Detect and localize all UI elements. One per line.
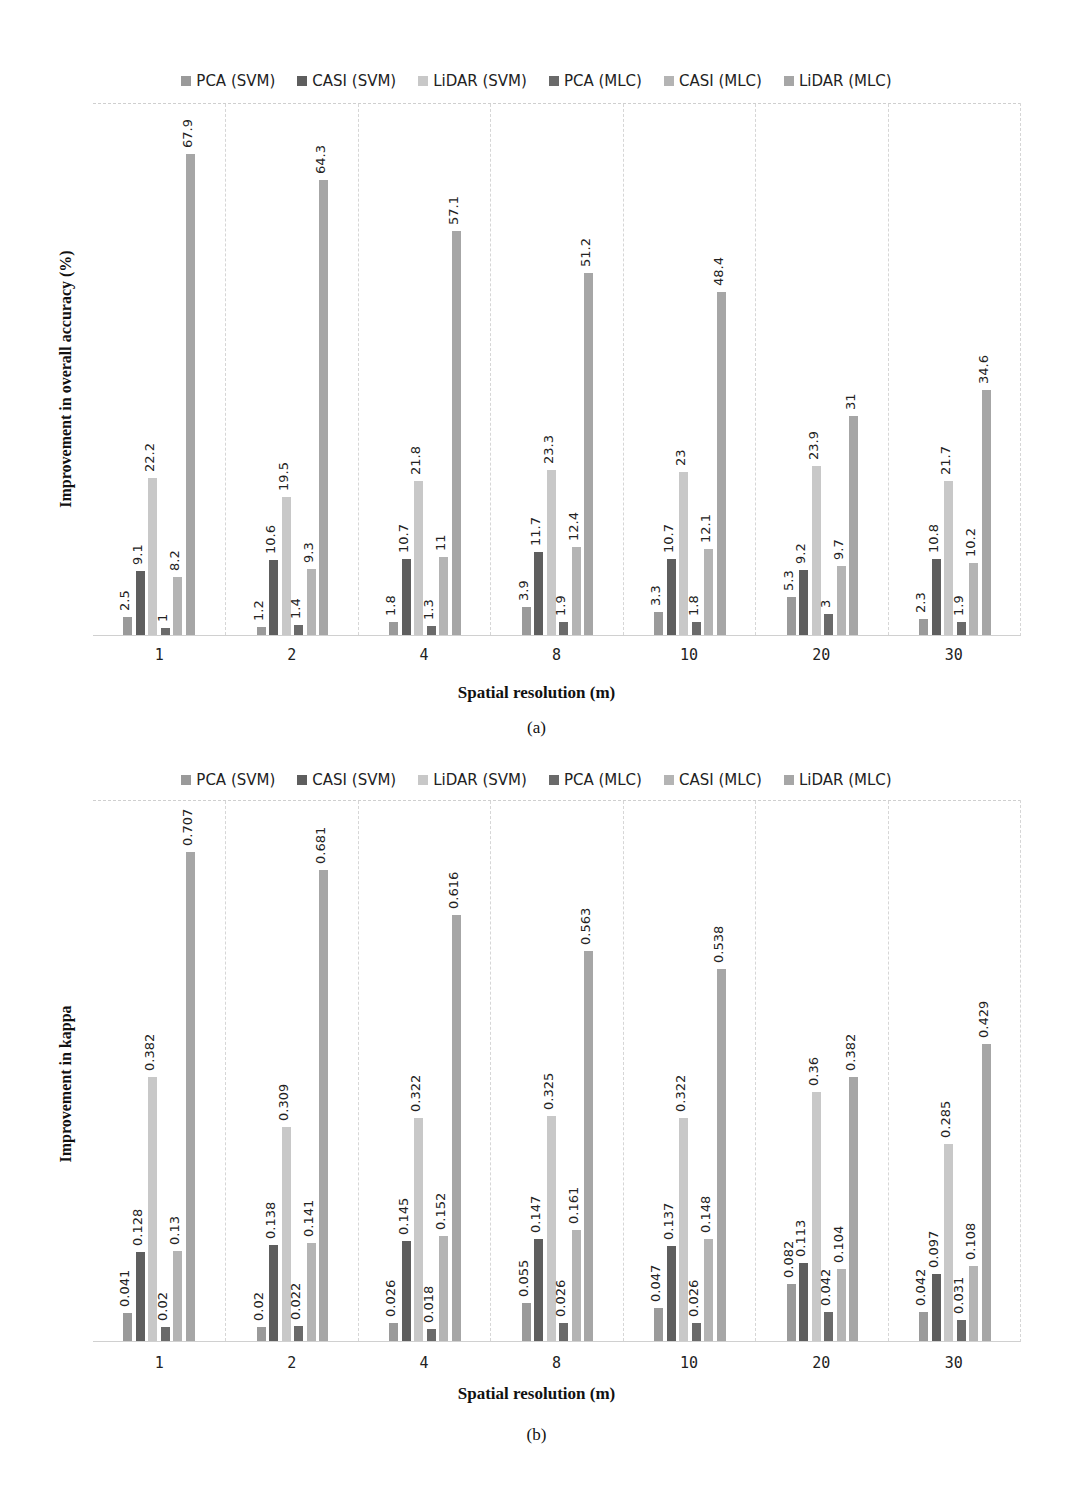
legend-item-pca-mlc: PCA (MLC) (549, 771, 642, 789)
bar-casi-mlc (837, 566, 846, 635)
data-label: 0.429 (977, 1001, 990, 1038)
bar-lidar-mlc (452, 915, 461, 1341)
bar-lidar-mlc (186, 154, 195, 635)
y-axis-label-a: Improvement in overall accuracy (%) (57, 209, 75, 549)
bar-casi-mlc (439, 557, 448, 635)
data-label: 5.3 (782, 571, 795, 592)
data-label: 0.36 (807, 1057, 820, 1086)
data-label: 0.538 (712, 925, 725, 962)
bar-casi-mlc (439, 1236, 448, 1341)
data-label: 0.031 (952, 1276, 965, 1313)
bar-pca-svm (257, 1327, 266, 1341)
bar-casi-mlc (704, 1239, 713, 1341)
data-label: 0.322 (409, 1075, 422, 1112)
data-label: 1 (156, 614, 169, 622)
x-tick-label: 8 (527, 1354, 587, 1372)
x-tick-label: 2 (262, 1354, 322, 1372)
category-group-2: 0.020.1380.3090.0220.1410.681 (225, 801, 357, 1341)
data-label: 0.041 (118, 1269, 131, 1306)
bar-lidar-mlc (849, 1077, 858, 1341)
legend-swatch-icon (664, 775, 674, 785)
data-label: 0.128 (131, 1209, 144, 1246)
legend-item-pca-svm: PCA (SVM) (181, 72, 275, 90)
legend-label: LiDAR (SVM) (433, 72, 527, 90)
data-label: 51.2 (579, 238, 592, 267)
bar-casi-mlc (704, 549, 713, 635)
bar-pca-svm (123, 1313, 132, 1341)
data-label: 3.3 (649, 585, 662, 606)
bar-lidar-mlc (982, 1044, 991, 1341)
category-group-20: 0.0820.1130.360.0420.1040.382 (755, 801, 887, 1341)
bar-pca-svm (919, 1312, 928, 1341)
data-label: 8.2 (168, 550, 181, 571)
data-label: 1.9 (952, 595, 965, 616)
category-group-8: 3.911.723.31.912.451.2 (490, 104, 622, 635)
legend-label: PCA (SVM) (196, 72, 275, 90)
bar-pca-mlc (692, 622, 701, 635)
category-group-8: 0.0550.1470.3250.0260.1610.563 (490, 801, 622, 1341)
bar-casi-mlc (837, 1269, 846, 1341)
legend-label: PCA (SVM) (196, 771, 275, 789)
bar-casi-svm (932, 1274, 941, 1341)
bar-pca-svm (787, 1284, 796, 1341)
data-label: 3 (819, 599, 832, 607)
bar-lidar-mlc (584, 951, 593, 1341)
data-label: 0.02 (156, 1292, 169, 1321)
data-label: 0.026 (384, 1280, 397, 1317)
data-label: 0.148 (699, 1195, 712, 1232)
legend-item-pca-svm: PCA (SVM) (181, 771, 275, 789)
legend-swatch-icon (181, 76, 191, 86)
data-label: 0.022 (289, 1283, 302, 1320)
bar-casi-mlc (572, 1230, 581, 1341)
legend-swatch-icon (664, 76, 674, 86)
category-group-10: 0.0470.1370.3220.0260.1480.538 (623, 801, 755, 1341)
data-label: 2.3 (914, 592, 927, 613)
bar-casi-mlc (969, 563, 978, 635)
bar-casi-svm (667, 559, 676, 635)
bar-pca-svm (389, 1323, 398, 1341)
legend-item-casi-svm: CASI (SVM) (297, 72, 396, 90)
data-label: 0.055 (517, 1260, 530, 1297)
data-label: 9.7 (832, 540, 845, 561)
data-label: 21.7 (939, 446, 952, 475)
bar-casi-svm (269, 1245, 278, 1341)
data-label: 3.9 (517, 581, 530, 602)
bar-lidar-mlc (319, 870, 328, 1341)
bar-lidar-mlc (452, 231, 461, 635)
data-label: 10.7 (397, 524, 410, 553)
data-label: 67.9 (181, 119, 194, 148)
y-axis-label-b: Improvement in kappa (57, 914, 75, 1254)
legend-label: CASI (MLC) (679, 72, 762, 90)
bar-casi-mlc (173, 577, 182, 635)
bar-pca-mlc (692, 1323, 701, 1341)
x-tick-label: 4 (394, 646, 454, 664)
bar-casi-mlc (572, 547, 581, 635)
data-label: 10.7 (662, 524, 675, 553)
legend-swatch-icon (784, 76, 794, 86)
category-group-1: 2.59.122.218.267.9 (93, 104, 225, 635)
legend-swatch-icon (784, 775, 794, 785)
bar-pca-mlc (957, 622, 966, 635)
data-label: 0.13 (168, 1216, 181, 1245)
x-tick-label: 4 (394, 1354, 454, 1372)
data-label: 0.152 (434, 1193, 447, 1230)
bar-pca-svm (123, 617, 132, 635)
data-label: 0.138 (264, 1202, 277, 1239)
data-label: 1.3 (422, 599, 435, 620)
data-label: 0.026 (554, 1280, 567, 1317)
data-label: 11.7 (529, 517, 542, 546)
data-label: 9.1 (131, 544, 144, 565)
legend-swatch-icon (418, 775, 428, 785)
data-label: 10.6 (264, 525, 277, 554)
x-tick-label: 20 (791, 646, 851, 664)
data-label: 0.042 (914, 1269, 927, 1306)
data-label: 2.5 (118, 591, 131, 612)
category-group-2: 1.210.619.51.49.364.3 (225, 104, 357, 635)
data-label: 23.3 (542, 435, 555, 464)
data-label: 0.097 (927, 1231, 940, 1268)
data-label: 31 (844, 393, 857, 410)
data-label: 1.2 (252, 600, 265, 621)
bar-casi-mlc (307, 1243, 316, 1341)
data-label: 11 (434, 535, 447, 552)
bar-pca-svm (522, 1303, 531, 1341)
